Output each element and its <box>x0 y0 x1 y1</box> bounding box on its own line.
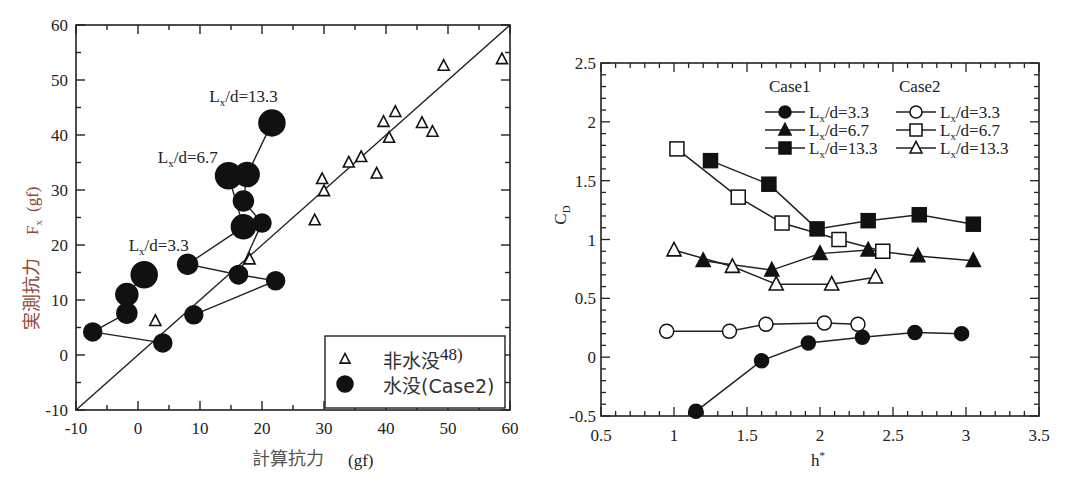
data-point <box>966 217 980 231</box>
legend-group-case2: Case2 <box>899 77 941 96</box>
x-tick-label: 3 <box>962 426 971 445</box>
x-tick-label: 2 <box>816 426 825 445</box>
data-point <box>801 336 815 350</box>
legend: Case1Case2Lx/d=3.3Lx/d=6.7Lx/d=13.3Lx/d=… <box>765 77 1008 160</box>
legend-marker-icon <box>779 123 791 135</box>
data-point <box>689 404 703 418</box>
data-point <box>861 214 875 228</box>
x-tick-label: 1 <box>670 426 679 445</box>
series-line <box>703 250 973 270</box>
x-tick-label: 2.5 <box>882 426 903 445</box>
legend-entry-label: Lx/d=13.3 <box>809 139 877 160</box>
data-point <box>762 177 776 191</box>
y-tick-label: 0.5 <box>575 289 596 308</box>
y-tick-label: 1 <box>588 231 597 250</box>
data-point <box>955 327 969 341</box>
legend-group-case1: Case1 <box>769 77 811 96</box>
data-point <box>912 208 926 222</box>
y-tick-label: 2.5 <box>575 54 596 73</box>
legend-marker-icon <box>910 141 922 153</box>
legend-marker-icon <box>910 124 922 136</box>
data-point <box>670 142 684 156</box>
data-point <box>759 317 773 331</box>
data-point <box>908 325 922 339</box>
data-point <box>851 317 865 331</box>
data-point <box>868 269 882 282</box>
series-line <box>696 332 962 411</box>
svg-text:CD: CD <box>551 205 572 224</box>
legend-marker-icon <box>910 106 922 118</box>
right-chart-drag-coefficient: 0.511.522.533.5-0.500.511.522.5h*CDCase1… <box>0 0 1075 487</box>
data-point <box>769 277 783 290</box>
data-point <box>855 330 869 344</box>
data-point <box>731 190 745 204</box>
legend-marker-icon <box>779 106 791 118</box>
y-tick-label: 0 <box>588 348 597 367</box>
y-tick-label: -0.5 <box>569 407 596 426</box>
legend-entry-label: Lx/d=13.3 <box>940 139 1008 160</box>
data-point <box>775 216 789 230</box>
data-point <box>667 242 681 255</box>
y-axis-label: CD <box>551 205 572 224</box>
data-point <box>722 324 736 338</box>
x-tick-label: 1.5 <box>736 426 757 445</box>
x-tick-label: 3.5 <box>1028 426 1049 445</box>
data-point <box>810 222 824 236</box>
series-line <box>711 161 974 229</box>
legend-marker-icon <box>779 142 791 154</box>
data-point <box>876 244 890 258</box>
data-point <box>660 324 674 338</box>
y-tick-label: 1.5 <box>575 172 596 191</box>
data-point <box>817 316 831 330</box>
y-tick-label: 2 <box>588 113 597 132</box>
data-point <box>704 154 718 168</box>
data-point <box>832 233 846 247</box>
x-axis-label: h* <box>811 449 825 470</box>
data-point <box>755 354 769 368</box>
x-tick-label: 0.5 <box>590 426 611 445</box>
